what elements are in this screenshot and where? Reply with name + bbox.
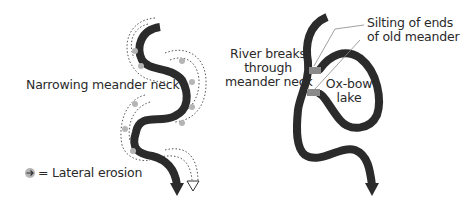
label-oxbow: Ox-bow lake	[323, 77, 375, 105]
silt-plug-lower	[307, 89, 320, 96]
label-oxbow-1: Ox-bow	[323, 77, 375, 91]
label-oxbow-2: lake	[323, 91, 375, 105]
label-lateral-erosion: = Lateral erosion	[38, 166, 142, 180]
label-silting-2: of old meander	[367, 30, 459, 44]
meander-diagram: Narrowing meander neck = Lateral erosion…	[0, 0, 466, 209]
flow-direction-arrow	[187, 181, 199, 191]
label-narrowing-neck: Narrowing meander neck	[26, 78, 179, 92]
label-river-breaks: River breaks through meander neck	[225, 47, 311, 89]
lateral-erosion-icon	[24, 167, 36, 179]
label-river-breaks-3: meander neck	[225, 75, 311, 89]
label-river-breaks-1: River breaks	[225, 47, 311, 61]
left-river-arrowhead	[170, 183, 184, 196]
right-river-arrowhead	[365, 183, 379, 196]
label-silting: Silting of ends of old meander	[367, 16, 459, 44]
label-silting-1: Silting of ends	[367, 16, 459, 30]
label-river-breaks-2: through	[225, 61, 311, 75]
